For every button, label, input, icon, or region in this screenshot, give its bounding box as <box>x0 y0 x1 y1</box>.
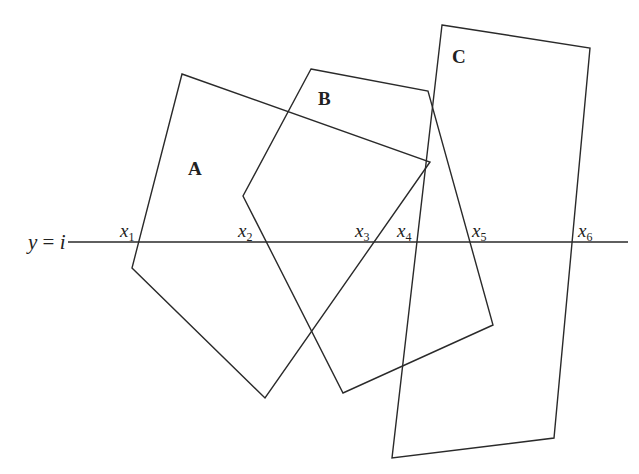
intersection-label-x2: x2 <box>237 220 252 244</box>
region-label-c: C <box>452 46 466 67</box>
scanline-label-val: i <box>60 230 66 254</box>
scanline-polygon-diagram: y = i A B C x1 x2 x3 x4 x5 x6 <box>0 0 639 474</box>
scanline-label: y = i <box>26 230 66 254</box>
intersection-label-x4: x4 <box>396 220 411 244</box>
intersection-label-x1: x1 <box>119 220 134 244</box>
intersection-label-x5: x5 <box>471 220 486 244</box>
region-label-a: A <box>188 158 202 179</box>
region-label-b: B <box>318 88 331 109</box>
polygon-a <box>132 74 430 398</box>
intersection-label-x3: x3 <box>354 220 369 244</box>
scanline-label-eq: = <box>37 230 59 254</box>
scanline-label-var: y <box>26 230 38 254</box>
intersection-label-x6: x6 <box>577 220 592 244</box>
